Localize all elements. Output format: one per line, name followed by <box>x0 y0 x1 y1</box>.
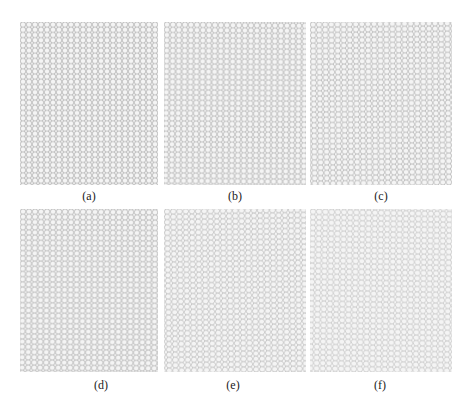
caption-a: (a) <box>59 189 119 204</box>
hex-lattice-image <box>20 209 158 372</box>
caption-e: (e) <box>203 378 263 393</box>
panel-f <box>310 209 452 372</box>
panel-c <box>310 22 452 185</box>
panel-a <box>20 22 158 185</box>
hex-lattice-image <box>20 22 158 185</box>
caption-d: (d) <box>71 378 131 393</box>
caption-c: (c) <box>351 189 411 204</box>
hex-lattice-image <box>310 209 452 372</box>
panel-e <box>164 209 306 372</box>
caption-b: (b) <box>205 189 265 204</box>
hex-lattice-image <box>164 22 306 185</box>
caption-f: (f) <box>350 378 410 393</box>
hex-lattice-image <box>310 22 452 185</box>
panel-d <box>20 209 158 372</box>
hex-lattice-image <box>164 209 306 372</box>
panel-b <box>164 22 306 185</box>
